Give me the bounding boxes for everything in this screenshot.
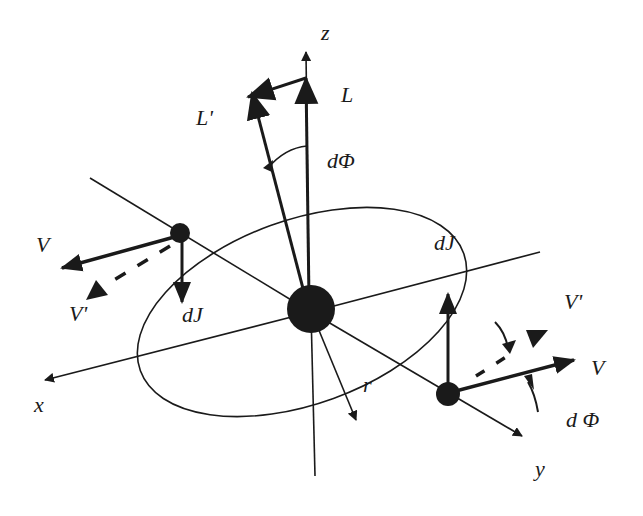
z-axis-lower [311,312,315,476]
dL-vector [248,78,306,97]
V-prime-right-label: V' [564,289,582,314]
V-prime-left-arrowhead [86,280,108,300]
V-prime-right-arrowhead [526,330,548,348]
y-axis-back [90,178,311,312]
x-axis-label: x [33,392,44,417]
x-axis-back [311,252,540,312]
d-phi-right-label: d Φ [566,407,600,432]
radius-r [318,328,356,420]
V-right-label: V [591,355,607,380]
d-phi-arc-tick [263,160,273,172]
L-prime-vector [252,93,306,300]
d-phi-arrow-upper-head [502,340,516,354]
d-phi-top-label: dΦ [327,148,355,173]
r-label: r [363,372,372,397]
z-axis-label: z [320,20,330,45]
y-axis [311,312,522,436]
L-vector [306,78,309,300]
L-prime-label: L' [195,105,213,130]
right-mass [436,382,460,406]
dJ-right-label: dJ [434,230,456,255]
precession-diagram: z L L' dΦ V V' dJ dJ V' V d Φ r x y [0,0,643,516]
left-mass [170,223,190,243]
V-prime-left-label: V' [69,301,87,326]
L-label: L [340,82,353,107]
V-prime-right-dashed [476,352,514,376]
diagram-canvas: z L L' dΦ V V' dJ dJ V' V d Φ r x y [0,0,643,516]
d-phi-arc-top [268,146,307,168]
V-right-vector [452,360,574,392]
d-phi-arrow-lower-head [524,374,534,390]
dJ-left-label: dJ [182,302,204,327]
V-left-label: V [36,232,52,257]
central-mass [287,285,335,333]
y-axis-label: y [533,456,545,481]
